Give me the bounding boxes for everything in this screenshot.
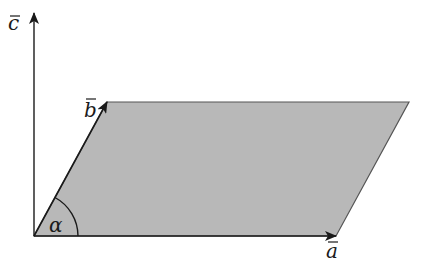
vector-diagram: c b a α xyxy=(0,0,426,271)
vector-b-label: b xyxy=(84,98,97,122)
parallelogram xyxy=(34,102,409,236)
vector-a-label: a xyxy=(326,239,338,263)
angle-label: α xyxy=(49,213,63,237)
diagram-canvas: c b a α xyxy=(0,0,426,271)
vector-c-label: c xyxy=(8,11,19,35)
